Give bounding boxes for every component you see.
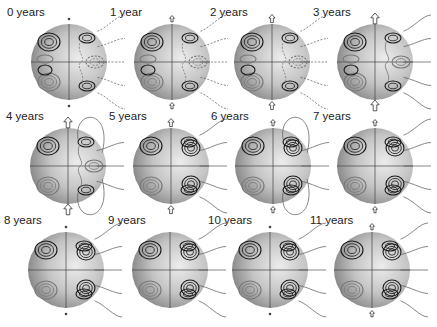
field-line (404, 15, 432, 31)
field-arrow-icon (64, 117, 72, 128)
panel-label: 2 years (210, 6, 248, 18)
field-arrow-icon (269, 313, 272, 316)
field-arrow-icon (170, 103, 175, 109)
field-line (404, 119, 432, 135)
field-arrow-icon (271, 120, 276, 126)
panel-label: 5 years (109, 110, 147, 122)
panel-label: 7 years (313, 110, 351, 122)
panel-0: 0 years (7, 6, 125, 109)
panel-label: 10 years (208, 214, 252, 226)
panel-5: 5 years (109, 110, 227, 214)
panel-label: 11 years (310, 214, 354, 226)
panel-1: 1 year (110, 6, 228, 109)
panel-label: 3 years (313, 6, 351, 18)
field-arrow-icon (373, 120, 378, 126)
panel-label: 6 years (211, 110, 249, 122)
field-arrow-icon (168, 119, 174, 127)
field-arrow-icon (271, 207, 276, 213)
field-arrow-icon (371, 13, 379, 24)
field-arrow-icon (68, 18, 71, 21)
field-arrow-icon (370, 311, 375, 317)
field-arrow-icon (373, 207, 378, 213)
field-arrow-icon (370, 224, 375, 230)
field-arrow-icon (170, 16, 175, 22)
field-arrow-icon (168, 206, 174, 214)
field-line (404, 93, 432, 109)
panel-label: 4 years (6, 110, 44, 122)
field-arrow-icon (65, 226, 68, 229)
field-line (401, 301, 429, 317)
field-arrow-icon (371, 100, 379, 111)
panel-7: 7 years (313, 110, 431, 213)
panel-11: 11 years (310, 214, 428, 317)
panel-6: 6 years (211, 110, 329, 215)
panel-label: 9 years (108, 214, 146, 226)
panel-label: 0 years (7, 6, 45, 18)
panel-10: 10 years (208, 214, 326, 317)
field-arrow-icon (269, 226, 272, 229)
field-arrow-icon (65, 313, 68, 316)
panel-8: 8 years (4, 214, 122, 317)
field-arrow-icon (269, 15, 275, 23)
panel-2: 2 years (210, 6, 328, 110)
field-line (98, 93, 126, 109)
field-line (95, 301, 123, 317)
solar-cycle-figure: 0 years1 year2 years3 years4 years5 year… (0, 0, 437, 327)
panel-label: 1 year (110, 6, 142, 18)
panel-3: 3 years (313, 6, 431, 111)
field-line (404, 197, 432, 213)
field-line (301, 93, 329, 109)
panel-label: 8 years (4, 214, 42, 226)
field-line (201, 93, 229, 109)
panel-9: 9 years (108, 214, 226, 317)
field-line (200, 197, 228, 213)
field-arrow-icon (68, 105, 71, 108)
field-line (299, 301, 327, 317)
panel-4: 4 years (6, 110, 124, 215)
field-line (401, 223, 429, 239)
field-arrow-icon (64, 204, 72, 215)
field-line (199, 301, 227, 317)
field-arrow-icon (269, 102, 275, 110)
